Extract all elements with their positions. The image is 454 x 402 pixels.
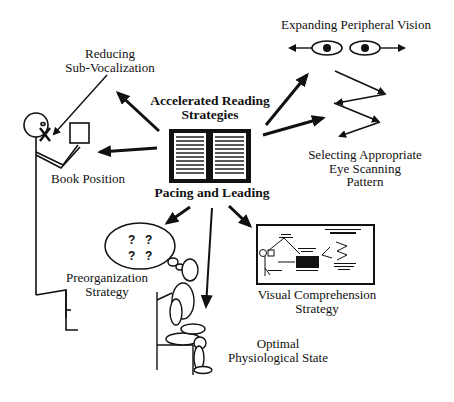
question-mark: ?: [128, 249, 135, 263]
open-book-icon: [169, 129, 251, 183]
zigzag-arrows-icon: [334, 71, 386, 136]
label-line: Optimal: [218, 337, 338, 351]
central-title-line2: Strategies: [146, 108, 274, 122]
central-title-line1: Accelerated Reading: [146, 94, 274, 108]
question-mark: ?: [128, 233, 135, 247]
seated-mannequin-icon: [157, 259, 212, 375]
label-sub-vocalization: Reducing Sub-Vocalization: [60, 47, 160, 74]
label-line: Visual Comprehension: [252, 288, 382, 302]
label-peripheral-vision: Expanding Peripheral Vision: [276, 18, 436, 32]
label-line: Strategy: [62, 285, 152, 299]
label-preorganization: Preorganization Strategy: [62, 271, 152, 298]
label-physiological-state: Optimal Physiological State: [218, 337, 338, 364]
eyes-outward-arrows-icon: [290, 41, 404, 55]
thought-bubble-icon: [105, 223, 189, 273]
label-line: Strategy: [252, 302, 382, 316]
accelerated-reading-diagram: Accelerated Reading Strategies Pacing an…: [0, 0, 454, 402]
label-book-position: Book Position: [48, 172, 128, 186]
label-line: Preorganization: [62, 271, 152, 285]
label-line: Reducing: [60, 47, 160, 61]
label-line: Selecting Appropriate: [300, 148, 430, 162]
question-mark: ?: [145, 233, 152, 247]
diagram-thumbnail-icon: [257, 225, 374, 284]
question-mark: ?: [145, 249, 152, 263]
label-line: Physiological State: [218, 351, 338, 365]
label-line: Sub-Vocalization: [60, 61, 160, 75]
label-line: Pattern: [300, 175, 430, 189]
label-visual-comprehension: Visual Comprehension Strategy: [252, 288, 382, 315]
central-title: Accelerated Reading Strategies: [146, 94, 274, 122]
label-line: Eye Scanning: [300, 162, 430, 176]
label-eye-scanning: Selecting Appropriate Eye Scanning Patte…: [300, 148, 430, 189]
central-subtitle: Pacing and Leading: [150, 186, 274, 200]
